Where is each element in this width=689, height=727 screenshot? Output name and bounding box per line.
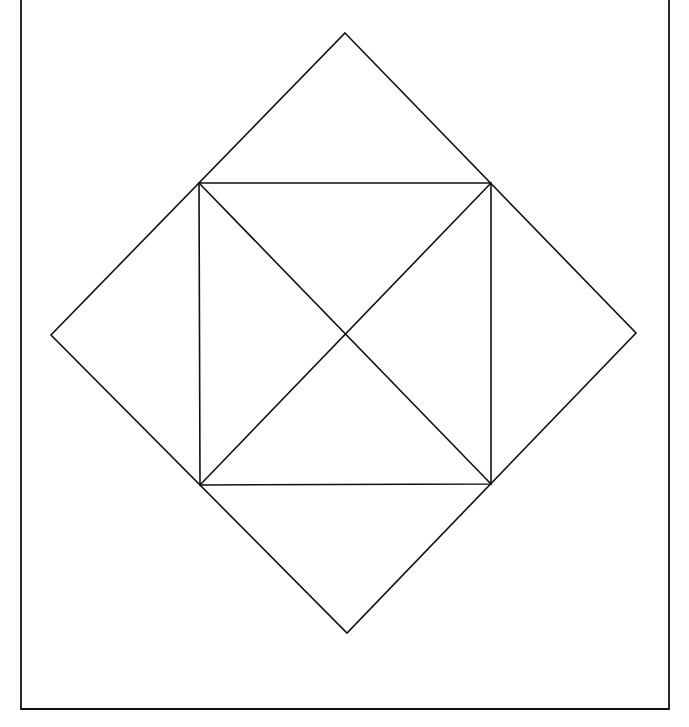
open-frame-border <box>21 0 669 709</box>
geometric-diagram <box>0 0 689 727</box>
